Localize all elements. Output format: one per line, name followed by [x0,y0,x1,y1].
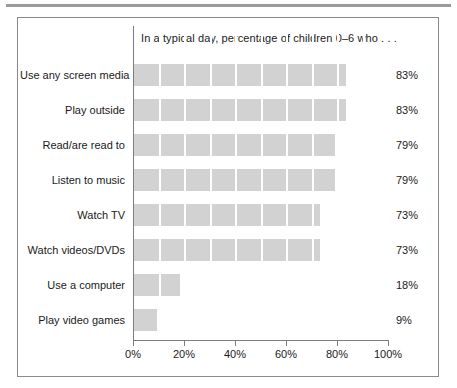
chart-page: In a typical day, percentage of children… [0,0,457,388]
bar [134,64,346,86]
bar-value-label: 73% [396,239,436,261]
category-label: Play video games [20,309,125,331]
bar-value-label: 18% [396,274,436,296]
category-label: Watch TV [20,204,125,226]
x-axis-tick [235,341,236,346]
x-axis-tick [337,341,338,346]
bar [134,169,335,191]
bar-value-label: 79% [396,134,436,156]
bar [134,204,320,226]
x-axis-tick-label: 40% [224,348,246,360]
x-axis-tick [286,341,287,346]
bar [134,239,320,261]
bar-value-label: 9% [396,309,436,331]
x-axis-tick [388,341,389,346]
x-axis-tick-label: 100% [374,348,402,360]
bar [134,134,335,156]
category-label: Play outside [20,99,125,121]
bar [134,274,180,296]
x-axis-tick-label: 0% [125,348,141,360]
bar-rows: Use any screen media83%Play outside83%Re… [0,0,457,388]
bar [134,99,346,121]
bar-value-label: 73% [396,204,436,226]
x-axis-tick [133,341,134,346]
bar-value-label: 83% [396,99,436,121]
x-axis-tick-label: 60% [275,348,297,360]
category-label: Listen to music [20,169,125,191]
category-label: Watch videos/DVDs [20,239,125,261]
x-axis-tick-label: 20% [173,348,195,360]
x-axis-tick-label: 80% [326,348,348,360]
bar-value-label: 83% [396,64,436,86]
bar-value-label: 79% [396,169,436,191]
category-label: Use any screen media [20,64,125,86]
x-axis-tick [184,341,185,346]
category-label: Read/are read to [20,134,125,156]
bar [134,309,157,331]
category-label: Use a computer [20,274,125,296]
